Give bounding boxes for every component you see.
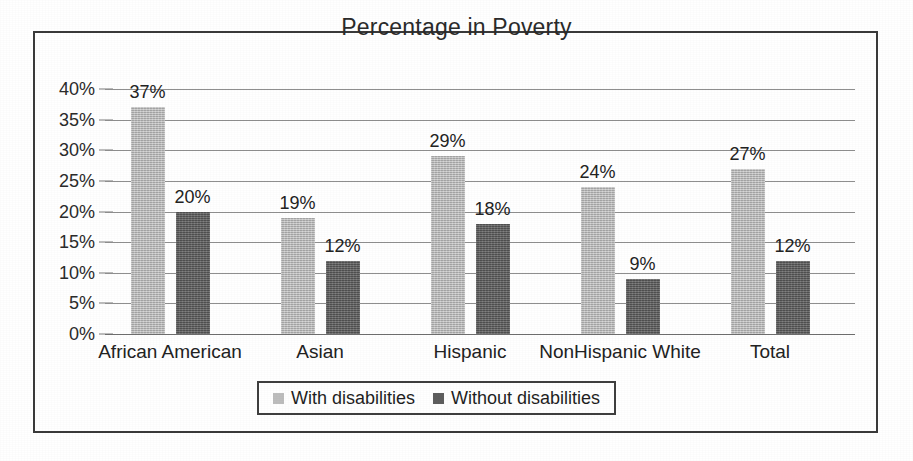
chart-title: Percentage in Poverty (0, 14, 913, 41)
y-axis-tick-label: 20% (33, 201, 95, 222)
y-axis-tick-label: 5% (33, 293, 95, 314)
y-axis: 0%5%10%15%20%25%30%35%40% (33, 89, 95, 334)
y-axis-tick-label: 10% (33, 262, 95, 283)
legend-label: With disabilities (291, 388, 415, 409)
chart-legend: With disabilitiesWithout disabilities (257, 381, 616, 415)
bar (731, 169, 765, 334)
bar (476, 224, 510, 334)
y-axis-tick-label: 25% (33, 170, 95, 191)
bar (176, 212, 210, 335)
bar (326, 261, 360, 335)
gridline (105, 120, 855, 121)
y-axis-tick-label: 35% (33, 109, 95, 130)
legend-label: Without disabilities (451, 388, 600, 409)
x-axis-category-label: Asian (296, 341, 344, 363)
legend-item: With disabilities (273, 388, 415, 409)
bar (626, 279, 660, 334)
bar-value-label: 24% (579, 162, 615, 183)
bar-value-label: 12% (774, 236, 810, 257)
y-axis-tick-label: 0% (33, 324, 95, 345)
y-axis-tick-label: 30% (33, 140, 95, 161)
bar-value-label: 27% (729, 144, 765, 165)
x-axis-category-label: Hispanic (434, 341, 507, 363)
bar-value-label: 9% (629, 254, 655, 275)
y-axis-tick-label: 40% (33, 79, 95, 100)
bar (776, 261, 810, 335)
legend-swatch-icon (433, 393, 444, 404)
bar-value-label: 12% (324, 236, 360, 257)
bar-value-label: 18% (474, 199, 510, 220)
bar-value-label: 29% (429, 131, 465, 152)
bar-value-label: 20% (174, 187, 210, 208)
bar-value-label: 37% (129, 82, 165, 103)
bar (431, 156, 465, 334)
bar (131, 107, 165, 334)
x-axis-category-label: NonHispanic White (539, 341, 701, 363)
bar-value-label: 19% (279, 193, 315, 214)
x-axis-category-label: Total (750, 341, 790, 363)
legend-swatch-icon (273, 393, 284, 404)
x-axis-category-label: African American (98, 341, 242, 363)
legend-item: Without disabilities (433, 388, 600, 409)
bar (581, 187, 615, 334)
y-axis-tick-label: 15% (33, 232, 95, 253)
gridline (105, 89, 855, 90)
bar (281, 218, 315, 334)
axis-baseline (105, 334, 855, 335)
